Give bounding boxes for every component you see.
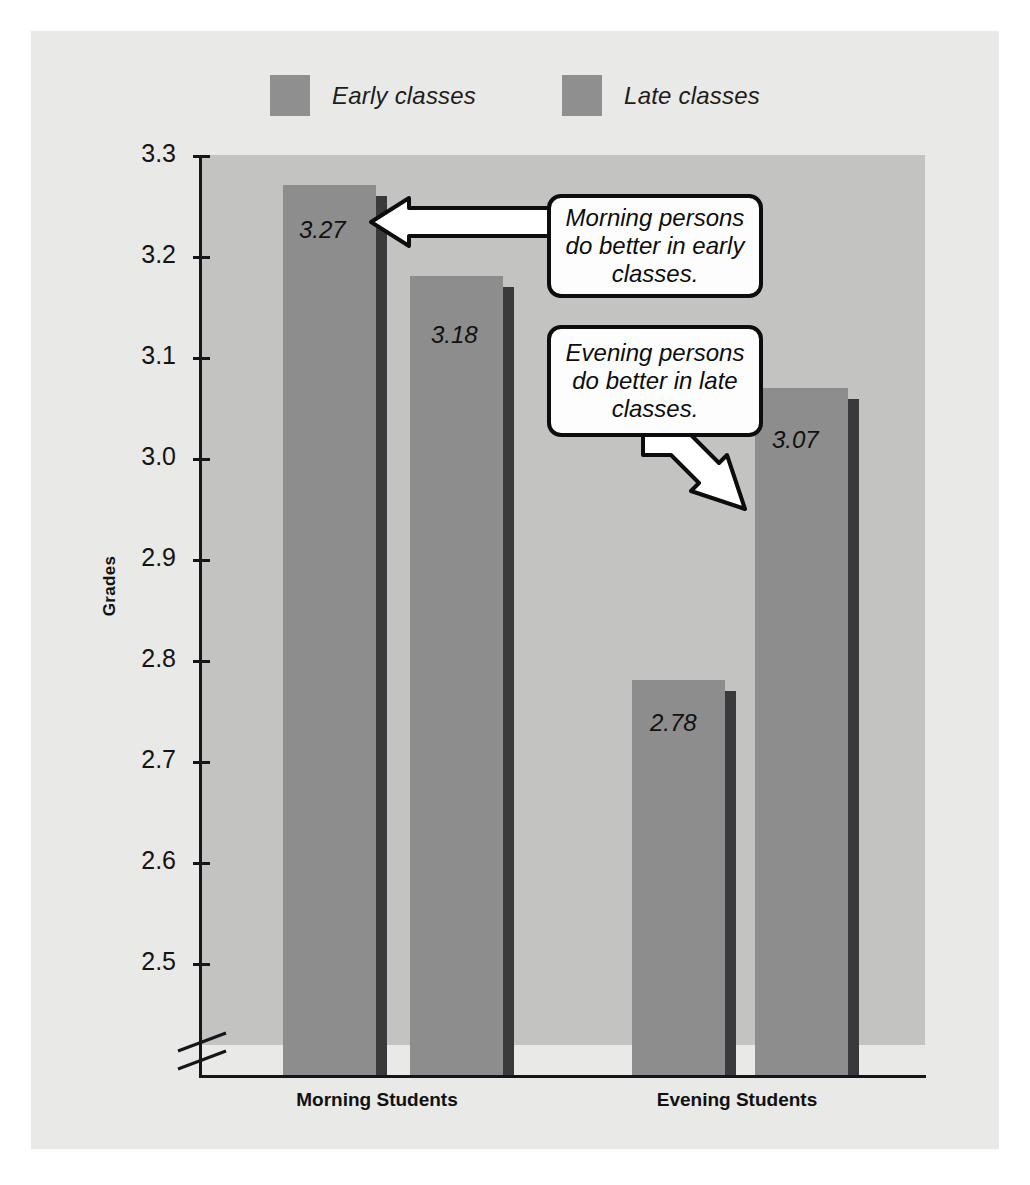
- bar-evening-early[interactable]: [632, 680, 725, 1075]
- y-tick-3.1: [193, 357, 210, 360]
- bar-morning-early[interactable]: [283, 185, 376, 1075]
- y-tick-label: 2.5: [106, 947, 176, 976]
- callout-arrow-diagonal-icon: [641, 421, 771, 541]
- legend-swatch-icon: [562, 75, 602, 116]
- chart-card: Early classes Late classes 3.3 3.2 3.1 3…: [31, 31, 999, 1149]
- y-tick-3.2: [193, 256, 210, 259]
- legend-swatch-icon: [270, 75, 310, 116]
- bar-value-label: 3.07: [772, 426, 819, 454]
- legend-label: Late classes: [624, 82, 760, 110]
- y-tick-2.7: [193, 761, 210, 764]
- bar-shadow-morning-late: [503, 287, 514, 1075]
- bar-shadow-morning-early: [376, 196, 387, 1075]
- x-category-label-evening: Evening Students: [597, 1089, 877, 1111]
- bar-value-label: 3.27: [299, 216, 346, 244]
- legend-label: Early classes: [332, 82, 476, 110]
- bar-shadow-evening-late: [848, 399, 859, 1075]
- y-tick-2.5: [193, 963, 210, 966]
- y-tick-label: 3.0: [106, 442, 176, 471]
- callout-text: Evening persons do better in late classe…: [565, 339, 745, 423]
- y-tick-label: 2.7: [106, 745, 176, 774]
- y-tick-2.8: [193, 660, 210, 663]
- legend-item-late-classes[interactable]: Late classes: [562, 75, 760, 116]
- chart-screenshot: Early classes Late classes 3.3 3.2 3.1 3…: [0, 0, 1030, 1185]
- y-tick-2.6: [193, 862, 210, 865]
- chart-legend: Early classes Late classes: [31, 75, 999, 116]
- y-tick-2.9: [193, 559, 210, 562]
- bar-shadow-evening-early: [725, 691, 736, 1075]
- y-tick-3.0: [193, 458, 210, 461]
- x-category-label-morning: Morning Students: [237, 1089, 517, 1111]
- y-tick-label: 3.2: [106, 240, 176, 269]
- bar-morning-late[interactable]: [410, 276, 503, 1075]
- axis-break-icon: [176, 1031, 232, 1071]
- y-axis-title: Grades: [100, 506, 120, 666]
- y-tick-label: 2.6: [106, 846, 176, 875]
- legend-item-early-classes[interactable]: Early classes: [270, 75, 476, 116]
- callout-text: Morning persons do better in early class…: [565, 204, 745, 288]
- bar-value-label: 3.18: [431, 321, 478, 349]
- y-tick-3.3: [193, 155, 210, 158]
- y-axis-line: [199, 155, 202, 1076]
- callout-morning-persons: Morning persons do better in early class…: [547, 194, 763, 298]
- y-tick-label: 3.1: [106, 341, 176, 370]
- y-tick-label: 3.3: [106, 139, 176, 168]
- bar-value-label: 2.78: [650, 709, 697, 737]
- x-axis-line: [199, 1075, 926, 1078]
